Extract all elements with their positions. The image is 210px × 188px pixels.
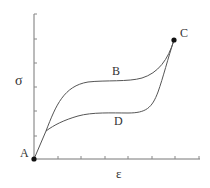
point-c-label: C — [180, 27, 188, 39]
point-a-marker — [31, 156, 36, 161]
point-d-label: D — [114, 115, 123, 127]
loading-curve-abc — [34, 40, 174, 159]
stress-strain-diagram — [0, 0, 210, 188]
x-axis-label: ε — [116, 167, 121, 180]
unloading-curve-cda — [46, 40, 174, 131]
point-c-marker — [171, 37, 176, 42]
point-a-label: A — [20, 147, 29, 159]
y-axis-label: σ — [15, 74, 23, 88]
point-b-label: B — [112, 65, 120, 77]
